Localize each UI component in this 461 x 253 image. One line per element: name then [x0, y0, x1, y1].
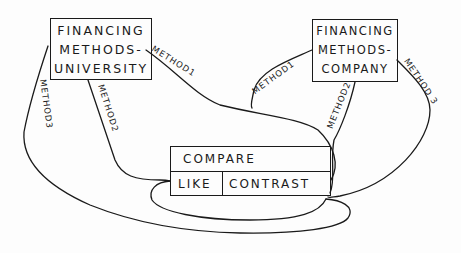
compare-columns-row: LIKE CONTRAST: [171, 172, 330, 196]
node-university-line-2: METHODS-: [51, 40, 151, 59]
node-company-line-1: FINANCING: [313, 22, 397, 41]
node-university: FINANCING METHODS- UNIVERSITY: [50, 18, 152, 80]
compare-header: COMPARE: [171, 147, 330, 172]
node-university-line-3: UNIVERSITY: [51, 59, 151, 78]
node-university-line-1: FINANCING: [51, 21, 151, 40]
node-compare-table: COMPARE LIKE CONTRAST: [170, 146, 331, 196]
node-company: FINANCING METHODS- COMPANY: [312, 19, 398, 82]
compare-column-like: LIKE: [171, 172, 223, 196]
node-company-line-2: METHODS-: [313, 41, 397, 60]
compare-column-contrast: CONTRAST: [223, 172, 310, 196]
node-company-line-3: COMPANY: [313, 60, 397, 79]
diagram-canvas: FINANCING METHODS- UNIVERSITY FINANCING …: [0, 0, 461, 253]
